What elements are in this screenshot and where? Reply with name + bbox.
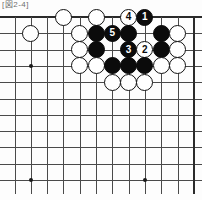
stone-black[interactable] [153,25,170,42]
hoshi-point [29,178,33,182]
stone-white[interactable] [169,57,186,74]
board-line-vertical [112,17,113,194]
board-line-vertical [63,17,64,194]
numbered-stone-2[interactable]: 2 [136,41,153,58]
stone-move-number: 2 [142,44,148,54]
hoshi-point [29,64,33,68]
board-line-vertical [31,17,32,194]
stone-white[interactable] [104,74,121,91]
hoshi-point [143,178,147,182]
board-line-vertical [15,17,16,194]
stone-black[interactable] [153,41,170,58]
stone-black[interactable] [120,57,137,74]
stone-white[interactable] [88,9,105,26]
board-line-vertical [193,17,195,194]
stone-white[interactable] [22,25,39,42]
stone-white[interactable] [88,57,105,74]
go-board[interactable]: 14532 [0,0,202,200]
numbered-stone-5[interactable]: 5 [104,25,121,42]
stone-move-number: 1 [142,12,148,22]
stone-black[interactable] [136,57,153,74]
stone-white[interactable] [55,9,72,26]
stone-black[interactable] [88,41,105,58]
stone-white[interactable] [71,57,88,74]
go-diagram-screenshot: [図2-4] 14532 [0,0,202,200]
stone-white[interactable] [120,74,137,91]
stone-black[interactable] [104,57,121,74]
stone-white[interactable] [71,25,88,42]
stone-white[interactable] [169,41,186,58]
stone-white[interactable] [169,25,186,42]
numbered-stone-3[interactable]: 3 [120,41,137,58]
stone-white[interactable] [71,41,88,58]
stone-black[interactable] [120,25,137,42]
stone-move-number: 4 [126,12,132,22]
numbered-stone-4[interactable]: 4 [120,9,137,26]
stone-move-number: 3 [126,44,132,54]
stone-move-number: 5 [110,28,116,38]
stone-black[interactable] [88,25,105,42]
stone-white[interactable] [153,57,170,74]
stone-white[interactable] [136,74,153,91]
numbered-stone-1[interactable]: 1 [136,9,153,26]
board-line-vertical [47,17,48,194]
